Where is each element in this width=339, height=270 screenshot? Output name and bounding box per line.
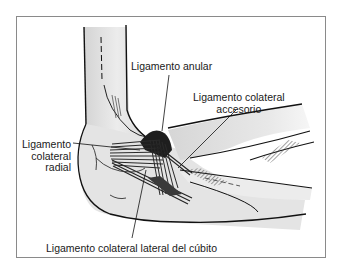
label-accessory-collateral-ligament: Ligamento colateral accesorio [193,92,285,115]
label-text-line2: accesorio [193,104,285,116]
label-annular-ligament: Ligamento anular [131,61,212,73]
label-text-line1: Ligamento [22,139,71,151]
label-text-line1: Ligamento colateral [193,92,285,104]
label-text-line3: radial [22,162,71,174]
leader-annular [162,75,169,131]
elbow-illustration [0,0,339,270]
label-lateral-ulnar-collateral-ligament: Ligamento colateral lateral del cúbito [46,243,217,255]
label-text: Ligamento colateral lateral del cúbito [46,242,217,254]
label-radial-collateral-ligament: Ligamento colateral radial [22,139,71,174]
label-text: Ligamento anular [131,60,212,72]
